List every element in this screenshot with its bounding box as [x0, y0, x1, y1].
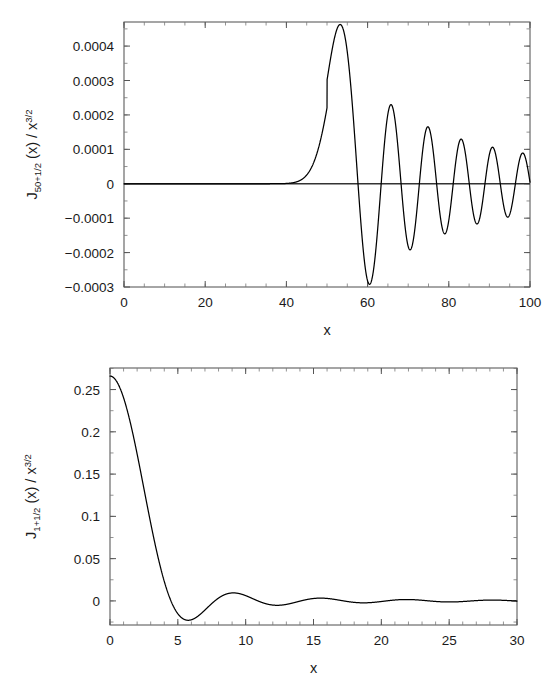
y-title-subscript: 1+1/2	[31, 508, 42, 532]
plot-frame	[110, 368, 517, 625]
y-tick-label: 0.0003	[73, 74, 114, 89]
x-tick-label: 80	[441, 295, 456, 310]
x-tick-label: 20	[198, 295, 213, 310]
y-title-superscript: 3/2	[22, 454, 33, 467]
y-title-base: J	[23, 532, 39, 539]
x-tick-label: 5	[174, 633, 182, 648]
x-tick-label: 15	[306, 633, 321, 648]
y-tick-label: 0	[92, 594, 100, 609]
x-tick-label: 0	[106, 633, 114, 648]
y-axis-title-group: J1+1/2 (x) / x3/2	[22, 454, 42, 539]
y-tick-label: 0.0004	[73, 39, 115, 54]
y-tick-label: 0.05	[74, 552, 100, 567]
chart-bottom-svg: 0510152025300.250.20.150.10.050xJ1+1/2 (…	[0, 345, 550, 691]
y-title-arg: (x) / x	[24, 122, 40, 163]
y-tick-label: 0.25	[74, 383, 100, 398]
x-tick-label: 30	[509, 633, 524, 648]
y-tick-label: 0.15	[74, 467, 100, 482]
x-tick-label: 60	[360, 295, 375, 310]
y-tick-label: 0	[106, 177, 114, 192]
y-title-subscript: 50+1/2	[32, 163, 43, 192]
x-tick-label: 100	[519, 295, 542, 310]
y-title-base: J	[24, 192, 40, 199]
chart-bottom-j1: 0510152025300.250.20.150.10.050xJ1+1/2 (…	[0, 345, 550, 691]
y-tick-label: 0.0001	[73, 142, 114, 157]
plot-frame	[124, 22, 530, 287]
y-tick-label: −0.0003	[65, 280, 114, 295]
y-tick-label: 0.2	[81, 425, 100, 440]
y-axis-title-group: J50+1/2 (x) / x3/2	[23, 109, 43, 199]
x-tick-label: 10	[238, 633, 253, 648]
chart-top-j50: 0204060801000.00040.00030.00020.00010−0.…	[0, 0, 550, 345]
x-tick-label: 25	[442, 633, 457, 648]
y-tick-label: −0.0001	[65, 211, 114, 226]
data-curve	[124, 24, 530, 284]
y-axis-title: J1+1/2 (x) / x3/2	[22, 454, 42, 539]
chart-top-svg: 0204060801000.00040.00030.00020.00010−0.…	[0, 0, 550, 345]
y-title-superscript: 3/2	[23, 109, 34, 122]
x-axis-title: x	[323, 322, 331, 338]
x-tick-label: 40	[279, 295, 294, 310]
y-title-arg: (x) / x	[23, 467, 39, 508]
y-axis-title: J50+1/2 (x) / x3/2	[23, 109, 43, 199]
x-axis-title: x	[310, 660, 318, 676]
x-tick-label: 0	[120, 295, 128, 310]
y-tick-label: 0.0002	[73, 108, 114, 123]
x-tick-label: 20	[374, 633, 389, 648]
y-tick-label: 0.1	[81, 509, 100, 524]
data-curve	[110, 376, 517, 620]
y-tick-label: −0.0002	[65, 246, 114, 261]
